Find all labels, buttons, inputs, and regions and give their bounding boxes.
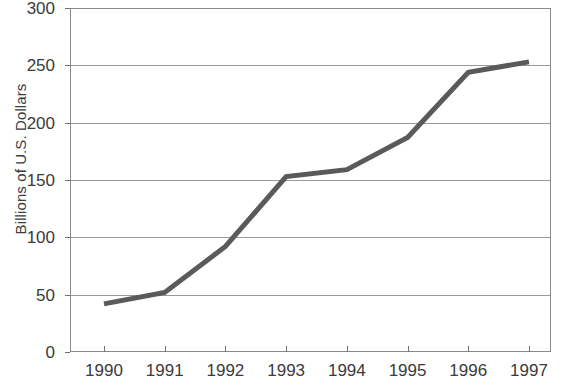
x-tick-label-1992: 1992: [207, 361, 245, 381]
line-chart: Billions of U.S. Dollars 300250200150100…: [0, 0, 570, 392]
x-tick-mark-1997: [529, 346, 530, 352]
y-tick-mark-50: [65, 295, 70, 296]
x-tick-mark-1995: [408, 346, 409, 352]
gridline-150: [71, 180, 550, 181]
y-tick-mark-150: [65, 180, 70, 181]
plot-area: [70, 8, 551, 352]
x-tick-mark-1994: [347, 346, 348, 352]
x-tick-label-1997: 1997: [510, 361, 548, 381]
x-tick-label-1996: 1996: [449, 361, 487, 381]
gridline-200: [71, 123, 550, 124]
x-tick-label-1994: 1994: [328, 361, 366, 381]
x-tick-mark-1996: [468, 346, 469, 352]
x-tick-label-1995: 1995: [389, 361, 427, 381]
y-axis-tick-labels: 300250200150100500: [0, 0, 64, 392]
x-tick-mark-1991: [165, 346, 166, 352]
y-tick-label-50: 50: [0, 286, 64, 303]
x-tick-label-1990: 1990: [85, 361, 123, 381]
x-tick-mark-1990: [104, 346, 105, 352]
y-tick-label-300: 300: [0, 0, 64, 17]
gridline-250: [71, 65, 550, 66]
x-tick-mark-1993: [286, 346, 287, 352]
x-tick-mark-1992: [225, 346, 226, 352]
y-tick-label-200: 200: [0, 114, 64, 131]
gridline-50: [71, 295, 550, 296]
y-tick-label-0: 0: [0, 344, 64, 361]
y-tick-label-250: 250: [0, 57, 64, 74]
y-tick-mark-250: [65, 65, 70, 66]
y-tick-mark-200: [65, 123, 70, 124]
y-tick-mark-0: [65, 352, 70, 353]
y-tick-label-100: 100: [0, 229, 64, 246]
x-tick-label-1993: 1993: [267, 361, 305, 381]
y-tick-label-150: 150: [0, 172, 64, 189]
chart-title: [70, 0, 551, 6]
y-tick-mark-300: [65, 8, 70, 9]
x-tick-label-1991: 1991: [146, 361, 184, 381]
y-tick-mark-100: [65, 237, 70, 238]
gridline-100: [71, 237, 550, 238]
